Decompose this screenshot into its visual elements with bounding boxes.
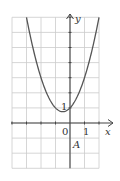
y-axis-label: y (75, 14, 81, 24)
parabola-curve (27, 17, 100, 111)
x-tick-label-1: 1 (83, 127, 89, 137)
parabola-graph (0, 0, 120, 181)
y-tick-label-1: 1 (61, 102, 67, 112)
origin-label: 0 (62, 127, 68, 137)
point-a-label: A (73, 140, 80, 150)
x-axis-label: x (105, 127, 111, 137)
